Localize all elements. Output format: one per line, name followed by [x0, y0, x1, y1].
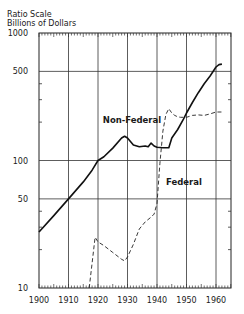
series-non-federal	[39, 64, 222, 232]
x-tick-label: 1950	[176, 296, 196, 305]
x-tick-label: 1900	[29, 296, 49, 305]
y-tick-label: 1000	[8, 29, 28, 38]
x-tick-label: 1960	[206, 296, 226, 305]
y-tick-label: 10	[18, 284, 28, 293]
x-tick-label: 1930	[117, 296, 137, 305]
series-line	[39, 64, 222, 232]
x-tick-label: 1940	[147, 296, 167, 305]
y-tick-label: 100	[13, 157, 28, 166]
x-tick-label: 1910	[58, 296, 78, 305]
y-tick-label: 50	[18, 195, 28, 204]
series-label-non-federal: Non-Federal	[103, 115, 162, 125]
series-federal	[89, 109, 222, 288]
series-line	[89, 109, 222, 288]
line-chart: 1900191019201930194019501960105010050010…	[0, 0, 244, 314]
series-label-federal: Federal	[166, 177, 202, 187]
y-tick-label: 500	[13, 67, 28, 76]
x-tick-label: 1920	[88, 296, 108, 305]
